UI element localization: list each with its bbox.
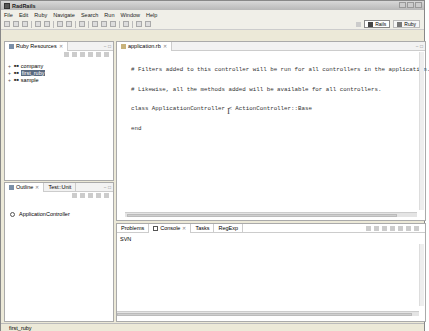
- tree-item-first-ruby[interactable]: + ■■ first_ruby: [8, 69, 45, 76]
- toggle-icon[interactable]: [123, 21, 129, 27]
- maximize-button[interactable]: [407, 2, 414, 8]
- menu-navigate[interactable]: Navigate: [53, 12, 75, 18]
- tab-regexp[interactable]: RegExp: [214, 224, 243, 233]
- save-icon[interactable]: [13, 21, 19, 27]
- close-tab-icon[interactable]: ✕: [163, 43, 167, 49]
- menu-file[interactable]: File: [4, 12, 13, 18]
- tab-problems[interactable]: Problems: [117, 224, 149, 233]
- minimize-button[interactable]: [399, 2, 406, 8]
- maximize-icon[interactable]: [414, 226, 419, 231]
- menu-edit[interactable]: Edit: [19, 12, 28, 18]
- tab-ruby-resources[interactable]: Ruby Resources ✕: [5, 42, 68, 51]
- tab-outline[interactable]: Outline ✕: [5, 183, 44, 192]
- tree-item-sample[interactable]: + ■■ sample: [8, 76, 45, 83]
- menu-run[interactable]: Run: [104, 12, 114, 18]
- perspective-switcher: Rails Ruby: [356, 20, 420, 28]
- new-icon[interactable]: [4, 21, 10, 27]
- perspective-rails[interactable]: Rails: [364, 20, 390, 28]
- menu-help[interactable]: Help: [146, 12, 157, 18]
- toolbar-separator: [53, 21, 54, 28]
- console-icon: [153, 226, 158, 231]
- title-bar: RadRails: [1, 1, 424, 10]
- ruby-resources-icon: [9, 44, 14, 49]
- undo-icon[interactable]: [57, 21, 63, 27]
- up-icon[interactable]: [80, 52, 85, 57]
- settings-icon[interactable]: [145, 21, 151, 27]
- tree-item-company[interactable]: + ■■ company: [8, 62, 45, 69]
- project-icon: ■■: [14, 63, 19, 68]
- editor-vertical-scrollbar[interactable]: [419, 52, 424, 210]
- menu-window[interactable]: Window: [120, 12, 140, 18]
- minimize-icon[interactable]: [406, 226, 411, 231]
- sort-icon[interactable]: [72, 193, 77, 198]
- console-vertical-scrollbar[interactable]: [419, 244, 424, 306]
- toolbar-separator: [75, 21, 76, 28]
- open-console-icon[interactable]: [398, 226, 403, 231]
- server-icon[interactable]: [136, 21, 142, 27]
- search-icon[interactable]: [110, 21, 116, 27]
- collapse-all-icon[interactable]: [88, 52, 93, 57]
- toolbar-separator: [132, 21, 133, 28]
- code-line: class ApplicationController < ActionCont…: [131, 106, 429, 113]
- perspective-ruby[interactable]: Ruby: [393, 20, 420, 28]
- close-button[interactable]: [415, 2, 422, 8]
- view-toolbar: [64, 52, 109, 57]
- debug-icon[interactable]: [92, 21, 98, 27]
- clear-console-icon[interactable]: [374, 226, 379, 231]
- editor-horizontal-scrollbar[interactable]: [125, 212, 417, 217]
- close-tab-icon[interactable]: ✕: [59, 43, 63, 49]
- back-icon[interactable]: [64, 52, 69, 57]
- minimize-maximize-icons[interactable]: − □: [104, 43, 111, 49]
- minimize-maximize-icons[interactable]: − □: [416, 43, 423, 49]
- menu-search[interactable]: Search: [81, 12, 98, 18]
- pin-console-icon[interactable]: [382, 226, 387, 231]
- menu-ruby[interactable]: Ruby: [34, 12, 47, 18]
- scrollbar-thumb[interactable]: [117, 313, 412, 316]
- code-editor[interactable]: # Filters added to this controller will …: [131, 54, 429, 145]
- console-horizontal-scrollbar[interactable]: [117, 311, 419, 316]
- console-output: SVN: [120, 236, 131, 242]
- project-tree: + ■■ company + ■■ first_ruby + ■■ sample: [8, 62, 45, 83]
- tab-console[interactable]: Console ✕: [149, 224, 191, 233]
- view-menu-icon[interactable]: [104, 52, 109, 57]
- ruby-resources-panel: Ruby Resources ✕ − □ + ■■ company + ■■ f…: [4, 41, 114, 181]
- toolbar-separator: [119, 21, 120, 28]
- open-perspective-icon[interactable]: [356, 22, 361, 27]
- link-editor-icon[interactable]: [96, 52, 101, 57]
- tab-test-unit[interactable]: Test::Unit: [44, 183, 76, 192]
- window-title: RadRails: [12, 3, 36, 9]
- print-icon[interactable]: [35, 21, 41, 27]
- view-menu-icon[interactable]: [104, 193, 109, 198]
- status-bar: first_ruby: [1, 323, 424, 331]
- close-tab-icon[interactable]: ✕: [182, 225, 186, 231]
- minimize-maximize-icons[interactable]: − □: [104, 184, 111, 190]
- save-all-icon[interactable]: [22, 21, 28, 27]
- tab-tasks[interactable]: Tasks: [191, 224, 214, 233]
- pen-icon[interactable]: [79, 21, 85, 27]
- hide-static-icon[interactable]: [88, 193, 93, 198]
- toolbar-separator: [31, 21, 32, 28]
- expand-icon[interactable]: +: [8, 70, 12, 76]
- outline-icon: [9, 185, 14, 190]
- outline-item-class[interactable]: ApplicationController: [10, 211, 70, 217]
- run-icon[interactable]: [101, 21, 107, 27]
- scroll-lock-icon[interactable]: [366, 226, 371, 231]
- ide-window: RadRails File Edit Ruby Navigate Search …: [0, 0, 425, 331]
- new-wizard-icon[interactable]: [44, 21, 50, 27]
- ruby-file-icon: [121, 44, 126, 49]
- tab-application-rb[interactable]: application.rb ✕: [117, 42, 172, 51]
- app-icon: [4, 3, 10, 9]
- edit-icon[interactable]: [66, 21, 72, 27]
- expand-icon[interactable]: +: [8, 63, 12, 69]
- project-icon: ■■: [14, 70, 19, 75]
- expand-icon[interactable]: +: [8, 77, 12, 83]
- code-line: # Filters added to this controller will …: [131, 67, 429, 74]
- console-toolbar: [366, 226, 419, 231]
- close-tab-icon[interactable]: ✕: [35, 184, 39, 190]
- hide-nonpublic-icon[interactable]: [96, 193, 101, 198]
- forward-icon[interactable]: [72, 52, 77, 57]
- scrollbar-thumb[interactable]: [127, 214, 397, 217]
- hide-fields-icon[interactable]: [80, 193, 85, 198]
- display-console-icon[interactable]: [390, 226, 395, 231]
- outline-panel: Outline ✕ Test::Unit − □ ApplicationCont…: [4, 182, 114, 322]
